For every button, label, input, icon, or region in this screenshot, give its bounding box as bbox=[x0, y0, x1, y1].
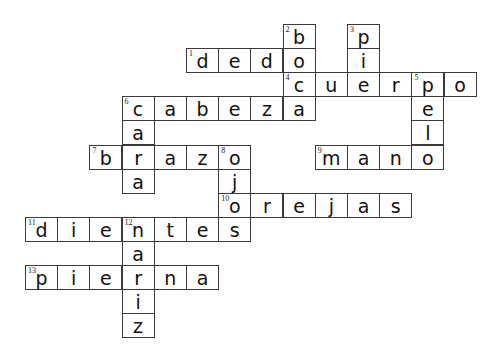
crossword-cell[interactable]: o8 bbox=[218, 145, 251, 170]
crossword-cell[interactable]: z bbox=[122, 313, 155, 338]
crossword-cell[interactable]: e bbox=[218, 96, 251, 121]
crossword-cell[interactable]: r bbox=[122, 145, 155, 170]
cell-letter: r bbox=[123, 146, 154, 169]
clue-number: 10 bbox=[221, 194, 229, 203]
crossword-cell[interactable]: r bbox=[250, 193, 283, 218]
crossword-cell[interactable]: o10 bbox=[218, 193, 251, 218]
crossword-cell[interactable]: o bbox=[283, 48, 316, 73]
crossword-cell[interactable]: e bbox=[283, 193, 316, 218]
crossword-cell[interactable]: e bbox=[186, 217, 219, 242]
crossword-cell[interactable]: u bbox=[315, 72, 348, 97]
crossword-cell[interactable]: a bbox=[186, 265, 219, 290]
cell-letter: s bbox=[380, 194, 411, 217]
crossword-cell[interactable]: i bbox=[57, 265, 90, 290]
crossword-cell[interactable]: z bbox=[186, 145, 219, 170]
clue-number: 11 bbox=[28, 218, 36, 227]
cell-letter: n bbox=[155, 266, 186, 289]
cell-letter: i bbox=[58, 266, 89, 289]
crossword-cell[interactable]: e bbox=[89, 265, 122, 290]
crossword-cell[interactable]: l bbox=[411, 120, 444, 145]
clue-number: 8 bbox=[221, 146, 225, 155]
crossword-cell[interactable]: n bbox=[379, 145, 412, 170]
cell-letter: i bbox=[348, 49, 379, 72]
crossword-cell[interactable]: e bbox=[411, 96, 444, 121]
cell-letter: a bbox=[348, 146, 379, 169]
cell-letter: j bbox=[219, 170, 250, 193]
crossword-cell[interactable]: r bbox=[122, 265, 155, 290]
clue-number: 13 bbox=[28, 266, 36, 275]
crossword-cell[interactable]: j bbox=[218, 169, 251, 194]
clue-number: 7 bbox=[92, 146, 96, 155]
cell-letter: i bbox=[123, 290, 154, 313]
clue-number: 12 bbox=[125, 218, 133, 227]
crossword-cell[interactable]: j bbox=[315, 193, 348, 218]
cell-letter: d bbox=[251, 49, 282, 72]
cell-letter: a bbox=[123, 242, 154, 265]
crossword-cell[interactable]: i bbox=[122, 289, 155, 314]
crossword-cell[interactable]: a bbox=[347, 145, 380, 170]
crossword-cell[interactable]: d11 bbox=[25, 217, 58, 242]
cell-letter: e bbox=[219, 49, 250, 72]
crossword-cell[interactable]: n12 bbox=[122, 217, 155, 242]
crossword-cell[interactable]: p3 bbox=[347, 24, 380, 49]
cell-letter: r bbox=[123, 266, 154, 289]
crossword-cell[interactable]: a bbox=[122, 169, 155, 194]
crossword-cell[interactable]: s bbox=[218, 217, 251, 242]
cell-letter: a bbox=[155, 97, 186, 120]
crossword-cell[interactable]: b2 bbox=[283, 24, 316, 49]
crossword-cell[interactable]: o bbox=[444, 72, 477, 97]
crossword-cell[interactable]: b bbox=[186, 96, 219, 121]
crossword-cell[interactable]: a bbox=[122, 120, 155, 145]
crossword-cell[interactable]: c6 bbox=[122, 96, 155, 121]
crossword-cell[interactable]: z bbox=[250, 96, 283, 121]
cell-letter: u bbox=[316, 73, 347, 96]
clue-number: 5 bbox=[414, 73, 418, 82]
cell-letter: a bbox=[123, 170, 154, 193]
crossword-cell[interactable]: a bbox=[122, 241, 155, 266]
crossword-cell[interactable]: n bbox=[154, 265, 187, 290]
cell-letter: r bbox=[380, 73, 411, 96]
cell-letter: o bbox=[445, 73, 476, 96]
cell-letter: e bbox=[90, 218, 121, 241]
crossword-cell[interactable]: i bbox=[347, 48, 380, 73]
crossword-cell[interactable]: r bbox=[379, 72, 412, 97]
crossword-cell[interactable]: d1 bbox=[186, 48, 219, 73]
crossword-cell[interactable]: a bbox=[154, 96, 187, 121]
crossword-grid: d1edob2c4ap3ieurp5oeloc6abezarab7azo8jo1… bbox=[0, 0, 501, 359]
cell-letter: e bbox=[219, 97, 250, 120]
crossword-cell[interactable]: s bbox=[379, 193, 412, 218]
crossword-cell[interactable]: a bbox=[283, 96, 316, 121]
crossword-cell[interactable]: i bbox=[57, 217, 90, 242]
crossword-cell[interactable]: e bbox=[347, 72, 380, 97]
cell-letter: z bbox=[187, 146, 218, 169]
crossword-cell[interactable]: t bbox=[154, 217, 187, 242]
crossword-cell[interactable]: m9 bbox=[315, 145, 348, 170]
crossword-cell[interactable]: p13 bbox=[25, 265, 58, 290]
cell-letter: r bbox=[251, 194, 282, 217]
cell-letter: a bbox=[187, 266, 218, 289]
cell-letter: a bbox=[123, 121, 154, 144]
clue-number: 1 bbox=[189, 49, 193, 58]
crossword-cell[interactable]: p5 bbox=[411, 72, 444, 97]
crossword-cell[interactable]: e bbox=[218, 48, 251, 73]
cell-letter: l bbox=[412, 121, 443, 144]
crossword-cell[interactable]: b7 bbox=[89, 145, 122, 170]
cell-letter: n bbox=[380, 146, 411, 169]
cell-letter: i bbox=[58, 218, 89, 241]
clue-number: 9 bbox=[318, 146, 322, 155]
crossword-cell[interactable]: a bbox=[154, 145, 187, 170]
cell-letter: a bbox=[155, 146, 186, 169]
clue-number: 6 bbox=[125, 97, 129, 106]
crossword-cell[interactable]: a bbox=[347, 193, 380, 218]
cell-letter: z bbox=[251, 97, 282, 120]
cell-letter: z bbox=[123, 314, 154, 337]
clue-number: 4 bbox=[286, 73, 290, 82]
crossword-cell[interactable]: o bbox=[411, 145, 444, 170]
crossword-cell[interactable]: e bbox=[89, 217, 122, 242]
clue-number: 3 bbox=[350, 25, 354, 34]
crossword-cell[interactable]: c4 bbox=[283, 72, 316, 97]
cell-letter: e bbox=[284, 194, 315, 217]
cell-letter: o bbox=[284, 49, 315, 72]
crossword-cell[interactable]: d bbox=[250, 48, 283, 73]
cell-letter: b bbox=[187, 97, 218, 120]
